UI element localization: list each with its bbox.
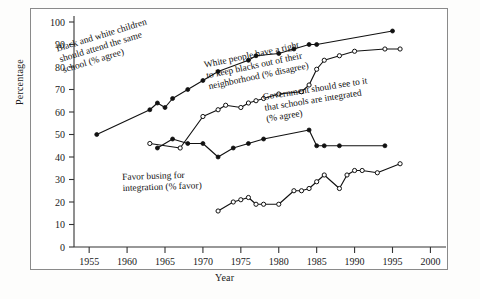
data-point	[383, 144, 387, 148]
data-point	[216, 209, 220, 213]
data-point	[307, 43, 311, 47]
data-point	[315, 67, 319, 71]
data-point	[352, 168, 356, 172]
data-point	[163, 106, 167, 110]
data-point	[201, 142, 205, 146]
x-tick-label: 1980	[269, 256, 289, 267]
data-point	[216, 155, 220, 159]
figure-container: 0102030405060708090100195519601965197019…	[0, 0, 480, 299]
data-point	[337, 186, 341, 190]
data-point	[307, 128, 311, 132]
data-point	[345, 173, 349, 177]
data-point	[322, 58, 326, 62]
data-point	[375, 171, 379, 175]
data-point	[322, 173, 326, 177]
data-point	[352, 49, 356, 53]
y-tick-label: 10	[55, 219, 65, 230]
x-tick-label: 1960	[117, 256, 137, 267]
x-tick-label: 2000	[420, 256, 440, 267]
series-2	[155, 128, 387, 159]
data-point	[246, 101, 250, 105]
x-tick-label: 1955	[79, 256, 99, 267]
data-point	[95, 133, 99, 137]
y-tick-label: 0	[60, 242, 65, 253]
data-point	[383, 47, 387, 51]
data-point	[337, 144, 341, 148]
x-tick-label: 1990	[345, 256, 365, 267]
data-point	[148, 141, 152, 145]
y-tick-label: 70	[55, 84, 65, 95]
data-point	[262, 137, 266, 141]
data-point	[231, 200, 235, 204]
data-point	[216, 108, 220, 112]
data-point	[254, 99, 258, 103]
x-tick-label: 1985	[307, 256, 327, 267]
data-point	[292, 189, 296, 193]
x-tick-label: 1970	[193, 256, 213, 267]
x-tick-label: 1995	[383, 256, 403, 267]
y-tick-label: 30	[55, 174, 65, 185]
data-point	[148, 108, 152, 112]
data-point	[315, 144, 319, 148]
data-point	[299, 189, 303, 193]
data-point	[307, 186, 311, 190]
data-point	[224, 103, 228, 107]
y-tick-label: 100	[50, 17, 65, 28]
y-axis-label: Percentage	[14, 59, 25, 105]
x-tick-label: 1965	[155, 256, 175, 267]
data-point	[201, 114, 205, 118]
data-point	[186, 142, 190, 146]
data-point	[171, 137, 175, 141]
data-point	[239, 105, 243, 109]
y-tick-label: 60	[55, 107, 65, 118]
annotation-favor-busing: Favor busing for integration (% favor)	[122, 169, 202, 194]
data-point	[322, 144, 326, 148]
x-axis-label: Year	[215, 272, 234, 283]
data-point	[186, 88, 190, 92]
data-point	[246, 195, 250, 199]
data-point	[277, 202, 281, 206]
y-tick-label: 40	[55, 152, 65, 163]
x-tick-label: 1975	[231, 256, 251, 267]
data-point	[315, 43, 319, 47]
data-point	[171, 97, 175, 101]
data-point	[360, 168, 364, 172]
data-point	[155, 146, 159, 150]
data-point	[155, 101, 159, 105]
series-line	[157, 130, 385, 157]
data-point	[178, 146, 182, 150]
data-point	[231, 146, 235, 150]
data-point	[261, 202, 265, 206]
data-point	[246, 142, 250, 146]
data-point	[398, 162, 402, 166]
data-point	[201, 79, 205, 83]
data-point	[239, 198, 243, 202]
data-point	[391, 29, 395, 33]
data-point	[337, 54, 341, 58]
series-3	[216, 162, 402, 213]
data-point	[315, 180, 319, 184]
y-tick-label: 50	[55, 129, 65, 140]
y-tick-label: 20	[55, 197, 65, 208]
data-point	[398, 47, 402, 51]
data-point	[254, 202, 258, 206]
